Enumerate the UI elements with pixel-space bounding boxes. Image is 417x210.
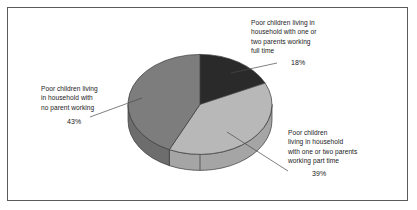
slice-percent-no-parent: 43% bbox=[67, 117, 137, 126]
chart-page: Poor children living in household with o… bbox=[0, 0, 417, 210]
slice-percent-part-time: 39% bbox=[312, 169, 394, 178]
slice-label-full-time-text: Poor children living in household with o… bbox=[251, 18, 356, 55]
pie-chart: Poor children living in household with o… bbox=[0, 0, 417, 210]
slice-label-no-parent-text: Poor children living in household with n… bbox=[41, 84, 137, 112]
slice-label-full-time: Poor children living in household with o… bbox=[251, 18, 356, 67]
slice-label-no-parent: Poor children living in household with n… bbox=[41, 84, 137, 126]
slice-percent-full-time: 18% bbox=[291, 58, 356, 67]
slice-label-part-time: Poor children living in household with o… bbox=[288, 128, 394, 178]
slice-label-part-time-text: Poor children living in household with o… bbox=[288, 128, 394, 165]
